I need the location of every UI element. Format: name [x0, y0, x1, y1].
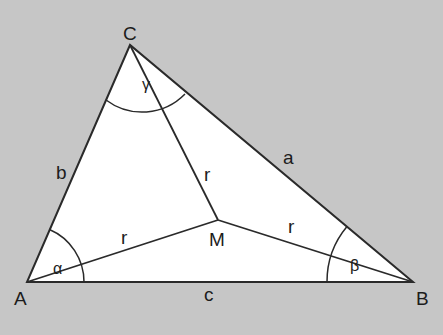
segment-label-r-left: r	[121, 227, 128, 248]
vertex-label-c: C	[123, 23, 137, 44]
side-label-b: b	[56, 162, 67, 183]
vertex-label-b: B	[416, 288, 429, 309]
angle-label-alpha: α	[53, 260, 62, 277]
angle-label-gamma: γ	[142, 76, 150, 93]
vertex-label-a: A	[14, 288, 27, 309]
point-label-m: M	[209, 229, 225, 250]
segment-label-r-top: r	[204, 164, 211, 185]
triangle-diagram: C A B M a b c r r r α β γ	[0, 0, 443, 335]
side-label-c: c	[204, 284, 214, 305]
segment-label-r-right: r	[288, 216, 295, 237]
side-label-a: a	[283, 147, 294, 168]
angle-label-beta: β	[350, 257, 359, 274]
